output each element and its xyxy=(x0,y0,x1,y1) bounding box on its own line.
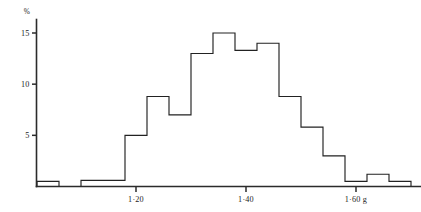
histogram-bar xyxy=(213,33,235,187)
y-axis-unit-label-text: % xyxy=(24,7,30,16)
histogram-bar xyxy=(301,127,323,186)
histogram-bar xyxy=(279,96,301,186)
histogram-bar xyxy=(147,96,169,186)
histogram-bar xyxy=(235,50,257,186)
y-axis-tick-label: 10 xyxy=(21,80,30,89)
x-axis-tick-labels: 1·201·401·60 g xyxy=(128,195,367,204)
y-axis-tick-labels: 51015 xyxy=(21,29,30,140)
x-axis-ticks xyxy=(136,187,356,193)
y-axis-tick-label: 15 xyxy=(21,29,30,38)
histogram-bar xyxy=(191,53,213,186)
histogram-plot: 51015 1·201·401·60 g % xyxy=(0,0,421,212)
y-axis-unit-label: % xyxy=(24,7,30,16)
histogram-figure: 51015 1·201·401·60 g % xyxy=(0,0,421,212)
histogram-bar xyxy=(169,115,191,187)
histogram-bar xyxy=(81,180,103,186)
bars-group xyxy=(37,33,411,187)
histogram-bar xyxy=(257,43,279,186)
histogram-bar xyxy=(103,180,125,186)
y-axis-tick-label: 5 xyxy=(25,131,29,140)
histogram-bar xyxy=(125,135,147,186)
x-axis-tick-label: 1·20 xyxy=(128,195,144,204)
x-axis-tick-label: 1·40 xyxy=(238,195,254,204)
histogram-bar xyxy=(323,156,345,187)
x-axis-tick-label: 1·60 g xyxy=(345,195,367,204)
histogram-bar xyxy=(367,174,389,186)
